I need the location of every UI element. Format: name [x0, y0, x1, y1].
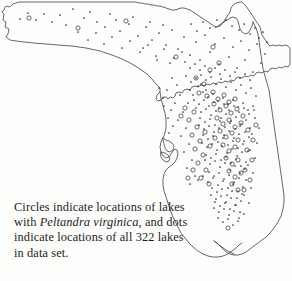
lake-dot-marker [177, 48, 179, 50]
lake-dot-marker [184, 61, 186, 63]
florida-lakes-figure: Circles indicate locations of lakes with… [0, 0, 292, 281]
lake-dot-marker [194, 63, 196, 65]
lake-dot-marker [213, 131, 215, 133]
lake-dot-marker [208, 125, 210, 127]
lake-dot-marker [258, 37, 260, 39]
tampa-bay-inlet [163, 138, 174, 152]
lake-dot-marker [254, 27, 256, 29]
lake-circle-marker [229, 111, 233, 115]
lake-dot-marker [115, 19, 117, 21]
lake-dot-marker [248, 202, 250, 204]
lake-dot-marker [243, 140, 245, 142]
lake-circle-marker [193, 147, 197, 151]
lake-circle-marker [245, 148, 249, 152]
lake-dot-marker [243, 23, 245, 25]
lake-dot-marker [247, 164, 249, 166]
lake-dot-marker [223, 37, 225, 39]
lake-dot-marker [213, 175, 215, 177]
lake-dot-marker [209, 51, 211, 53]
lake-dot-marker [189, 183, 191, 185]
lake-dot-marker [256, 43, 258, 45]
lake-dot-marker [210, 114, 212, 116]
lake-dot-marker [155, 55, 157, 57]
lake-circle-marker [201, 153, 205, 157]
lake-circle-marker [199, 176, 203, 180]
lake-dot-marker [228, 130, 230, 132]
lake-dot-marker [216, 19, 218, 21]
lake-dot-marker [238, 177, 240, 179]
lake-dot-marker [242, 143, 244, 145]
lake-dot-marker [200, 111, 202, 113]
lake-dot-marker [132, 16, 134, 18]
lake-dot-marker [197, 85, 199, 87]
lake-dot-marker [195, 41, 197, 43]
lake-dot-marker [239, 211, 241, 213]
lake-dot-marker [238, 111, 240, 113]
lake-circle-marker [218, 108, 222, 112]
lake-dot-marker [252, 105, 254, 107]
lake-dot-marker [165, 44, 167, 46]
lake-dot-marker [223, 178, 225, 180]
lake-dot-marker [214, 124, 216, 126]
lake-dot-marker [260, 62, 262, 64]
lake-dot-marker [104, 26, 106, 28]
lake-dot-marker [187, 102, 189, 104]
lake-dot-marker [208, 105, 210, 107]
lake-dot-marker [233, 210, 235, 212]
lake-dot-marker [256, 142, 258, 144]
lake-circle-marker [236, 158, 240, 162]
lake-dot-marker [215, 198, 217, 200]
lake-dot-marker [180, 135, 182, 137]
lake-dot-marker [158, 32, 160, 34]
lake-circle-marker [218, 129, 222, 133]
lake-circle-marker [197, 91, 201, 95]
lake-dot-marker [245, 119, 247, 121]
lake-circle-marker [250, 158, 254, 162]
lake-dot-marker [237, 220, 239, 222]
lake-dot-marker [234, 204, 236, 206]
lake-dot-marker [95, 32, 97, 34]
lake-dot-marker [231, 190, 233, 192]
lake-dot-marker [227, 187, 229, 189]
lake-dot-marker [162, 97, 164, 99]
lake-circle-marker [204, 168, 208, 172]
lake-dot-marker [237, 190, 239, 192]
caption-line-2-post: , [138, 215, 141, 229]
lake-dot-marker [222, 221, 224, 223]
lake-dot-marker [222, 180, 224, 182]
lake-dot-marker [245, 179, 247, 181]
lake-dot-marker [197, 179, 199, 181]
lake-dot-marker [232, 183, 234, 185]
lake-dot-marker [189, 89, 191, 91]
lake-dot-marker [195, 77, 197, 79]
lake-dot-marker [158, 87, 160, 89]
lake-circle-marker [198, 139, 202, 143]
lake-dot-marker [213, 207, 215, 209]
lake-dot-marker [244, 131, 246, 133]
lake-dot-marker [224, 162, 226, 164]
lake-dot-marker [163, 105, 165, 107]
lake-dot-marker [202, 21, 204, 23]
lake-dot-marker [219, 120, 221, 122]
lake-dot-marker [185, 75, 187, 77]
lake-dot-marker [196, 30, 198, 32]
lake-dot-marker [179, 94, 181, 96]
lake-dot-marker [151, 39, 153, 41]
lake-dot-marker [147, 44, 149, 46]
lake-dot-marker [217, 141, 219, 143]
lake-dot-marker [205, 79, 207, 81]
lake-dot-marker [139, 51, 141, 53]
lake-dot-marker [72, 8, 74, 10]
lake-dot-marker [252, 71, 254, 73]
lake-dot-marker [216, 149, 218, 151]
lake-dot-marker [191, 159, 193, 161]
lake-dot-marker [220, 78, 222, 80]
lake-dot-marker [183, 36, 185, 38]
lake-dot-marker [250, 187, 252, 189]
lake-circle-marker [196, 161, 200, 165]
lake-dot-marker [167, 117, 169, 119]
lake-dot-marker [128, 23, 130, 25]
lake-dot-marker [245, 161, 247, 163]
lake-dot-marker [215, 110, 217, 112]
lake-dot-marker [209, 118, 211, 120]
